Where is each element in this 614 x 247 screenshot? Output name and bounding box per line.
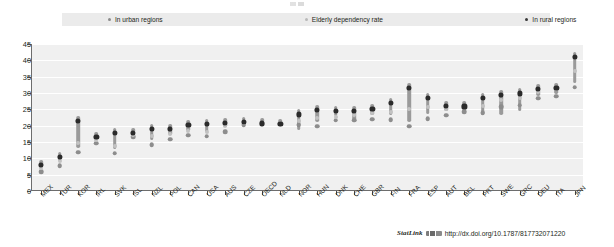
data-point-rural: [517, 91, 522, 96]
legend-label-rural: In rural regions: [532, 16, 576, 23]
data-column[interactable]: [87, 44, 105, 191]
chart-figure: In urban regions Elderly dependency rate…: [0, 0, 614, 247]
data-point-oecd: [426, 105, 430, 109]
data-point-urban: [333, 118, 338, 123]
data-column[interactable]: [326, 44, 344, 191]
data-point-urban: [536, 96, 541, 101]
data-point-urban: [425, 116, 430, 121]
data-column[interactable]: [529, 44, 547, 191]
data-point-oecd: [297, 119, 301, 123]
data-point-rural: [167, 126, 172, 131]
data-point-oecd: [573, 69, 577, 73]
data-point-urban: [39, 170, 44, 175]
data-point-urban: [352, 118, 357, 123]
data-point-oecd: [499, 98, 503, 102]
data-point-rural: [204, 122, 209, 127]
data-point-oecd: [370, 111, 374, 115]
data-point-rural: [572, 54, 577, 59]
data-point-urban: [296, 123, 301, 128]
data-point-urban: [462, 110, 467, 115]
data-point-urban: [444, 113, 449, 118]
statlink-label: StatLink: [397, 229, 423, 237]
data-point-oecd: [58, 159, 62, 163]
data-point-urban: [149, 143, 154, 148]
data-point-urban: [554, 94, 559, 99]
data-column[interactable]: [234, 44, 252, 191]
data-column[interactable]: [510, 44, 528, 191]
data-point-urban: [315, 124, 320, 129]
data-point-oecd: [76, 141, 80, 145]
data-point-rural: [407, 86, 412, 91]
data-column[interactable]: [198, 44, 216, 191]
data-point-urban: [517, 103, 522, 108]
data-column[interactable]: [418, 44, 436, 191]
data-column[interactable]: [345, 44, 363, 191]
data-column[interactable]: [179, 44, 197, 191]
legend-item-rural[interactable]: In rural regions: [525, 16, 576, 23]
statlink-url[interactable]: http://dx.doi.org/10.1787/817732071220: [445, 230, 566, 237]
data-point-oecd: [150, 134, 154, 138]
legend-item-urban[interactable]: In urban regions: [108, 16, 163, 23]
data-point-oecd: [186, 129, 190, 133]
cropped-title-fragment: [290, 2, 304, 6]
data-column[interactable]: [50, 44, 68, 191]
data-point-oecd: [334, 115, 338, 119]
data-column[interactable]: [547, 44, 565, 191]
legend-label-elderly: Elderly dependency rate: [312, 16, 383, 23]
dot-icon: [525, 18, 528, 21]
data-column[interactable]: [124, 44, 142, 191]
data-point-rural: [333, 109, 338, 114]
data-column[interactable]: [290, 44, 308, 191]
data-point-oecd: [205, 130, 209, 134]
data-point-urban: [186, 133, 191, 138]
data-point-rural: [75, 118, 80, 123]
data-column[interactable]: [474, 44, 492, 191]
data-column[interactable]: [382, 44, 400, 191]
data-column[interactable]: [492, 44, 510, 191]
data-point-urban: [572, 85, 577, 90]
data-point-oecd: [113, 144, 117, 148]
data-point-rural: [296, 112, 301, 117]
data-column[interactable]: [32, 44, 50, 191]
data-point-rural: [278, 122, 283, 127]
data-point-oecd: [168, 132, 172, 136]
data-point-rural: [112, 131, 117, 136]
data-column[interactable]: [308, 44, 326, 191]
data-point-rural: [370, 107, 375, 112]
data-point-oecd: [518, 96, 522, 100]
data-point-urban: [112, 151, 117, 156]
data-column[interactable]: [106, 44, 124, 191]
data-point-urban: [223, 129, 228, 134]
data-point-urban: [57, 163, 62, 168]
data-column[interactable]: [271, 44, 289, 191]
data-point-urban: [204, 134, 209, 139]
statlink-source[interactable]: StatLink http://dx.doi.org/10.1787/81773…: [397, 229, 565, 237]
data-point-oecd: [315, 116, 319, 120]
plot-area: [31, 44, 583, 191]
data-point-rural: [425, 96, 430, 101]
data-point-urban: [168, 137, 173, 142]
data-point-rural: [57, 154, 62, 159]
statlink-barcode-icon: [426, 231, 442, 236]
data-point-oecd: [389, 110, 393, 114]
data-column[interactable]: [216, 44, 234, 191]
data-column[interactable]: [363, 44, 381, 191]
data-column[interactable]: [455, 44, 473, 191]
data-point-rural: [499, 92, 504, 97]
data-point-urban: [388, 118, 393, 123]
data-point-rural: [388, 101, 393, 106]
data-column[interactable]: [400, 44, 418, 191]
data-column[interactable]: [437, 44, 455, 191]
data-point-oecd: [407, 107, 411, 111]
data-point-urban: [499, 104, 504, 109]
data-column[interactable]: [566, 44, 584, 191]
data-column[interactable]: [142, 44, 160, 191]
legend-item-elderly-dependency-rate[interactable]: Elderly dependency rate: [305, 16, 383, 23]
data-point-rural: [186, 122, 191, 127]
y-axis: 051015202530354045: [0, 0, 31, 247]
data-column[interactable]: [69, 44, 87, 191]
legend-label-urban: In urban regions: [115, 16, 163, 23]
data-column[interactable]: [161, 44, 179, 191]
dot-icon: [305, 18, 308, 21]
data-column[interactable]: [253, 44, 271, 191]
